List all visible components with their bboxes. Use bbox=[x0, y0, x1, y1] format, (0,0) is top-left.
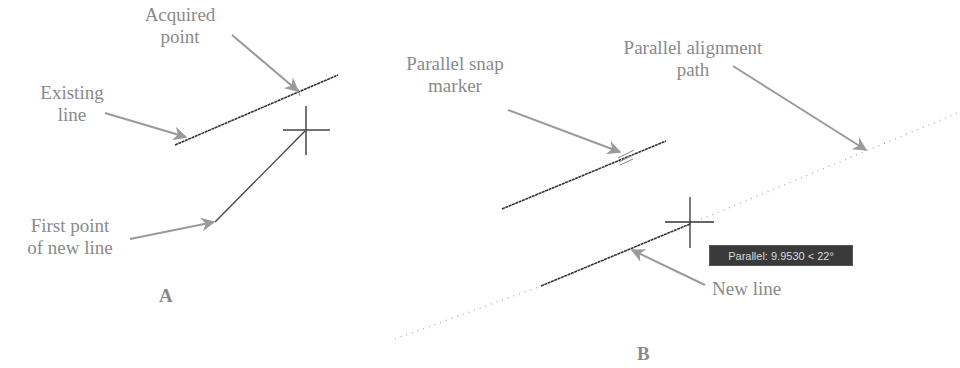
existing-line bbox=[175, 75, 338, 145]
panel-b-letter: B bbox=[637, 343, 650, 365]
crosshair-cursor-icon bbox=[665, 197, 714, 248]
parallel-tooltip: Parallel: 9.9530 < 22° bbox=[709, 245, 853, 266]
arrow-parallel-snap bbox=[508, 110, 620, 152]
arrow-acquired-point bbox=[232, 35, 298, 91]
alignment-path-upper bbox=[690, 112, 960, 224]
label-parallel-snap-marker: Parallel snap marker bbox=[385, 53, 525, 97]
label-parallel-alignment-path: Parallel alignment path bbox=[598, 37, 788, 81]
existing-line-b bbox=[502, 141, 666, 209]
new-line-b bbox=[541, 224, 690, 286]
panel-b bbox=[395, 66, 960, 339]
panel-a-letter: A bbox=[159, 285, 173, 307]
arrow-first-point bbox=[130, 222, 214, 239]
label-new-line: New line bbox=[712, 278, 781, 300]
label-existing-line: Existing line bbox=[24, 82, 120, 126]
new-line-segment bbox=[215, 131, 305, 222]
arrow-new-line bbox=[632, 250, 705, 285]
label-acquired-point: Acquired point bbox=[120, 4, 240, 48]
panel-a bbox=[105, 35, 338, 239]
alignment-path-lower bbox=[395, 286, 541, 339]
label-first-point: First point of new line bbox=[6, 215, 134, 259]
crosshair-cursor-icon bbox=[283, 106, 330, 155]
